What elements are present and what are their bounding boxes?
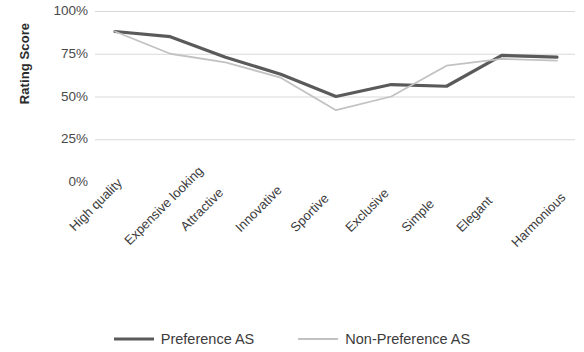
x-axis-category-labels: High qualityExpensive lookingAttractiveI… [0, 182, 584, 302]
y-tick-label: 100% [34, 4, 88, 18]
legend-label: Preference AS [161, 332, 255, 347]
plot-svg [95, 11, 575, 182]
legend-item: Non-Preference AS [298, 332, 470, 347]
x-axis-label: Innovative [233, 183, 284, 234]
series-lines [115, 32, 557, 111]
y-tick-label: 50% [34, 90, 88, 104]
rating-score-line-chart: Rating Score 100%75%50%25%0% High qualit… [0, 0, 584, 352]
x-axis-label: Sportive [288, 191, 331, 234]
x-axis-label: Harmonious [509, 190, 568, 249]
legend-line-swatch [298, 334, 338, 344]
series-line [115, 32, 557, 97]
legend-item: Preference AS [114, 332, 255, 347]
legend-label: Non-Preference AS [345, 332, 470, 347]
y-tick-label: 75% [34, 47, 88, 61]
y-tick-label: 25% [34, 132, 88, 146]
y-axis-title: Rating Score [17, 4, 32, 124]
legend-line-swatch [114, 334, 154, 344]
x-axis-label: Elegant [454, 194, 494, 234]
chart-legend: Preference ASNon-Preference AS [0, 326, 584, 352]
x-axis-label: Exclusive [343, 186, 391, 234]
series-line [115, 32, 557, 111]
plot-area [95, 11, 575, 182]
x-axis-label: High quality [67, 176, 124, 233]
y-axis-tick-labels: 100%75%50%25%0% [32, 0, 88, 190]
x-axis-label: Simple [399, 197, 436, 234]
